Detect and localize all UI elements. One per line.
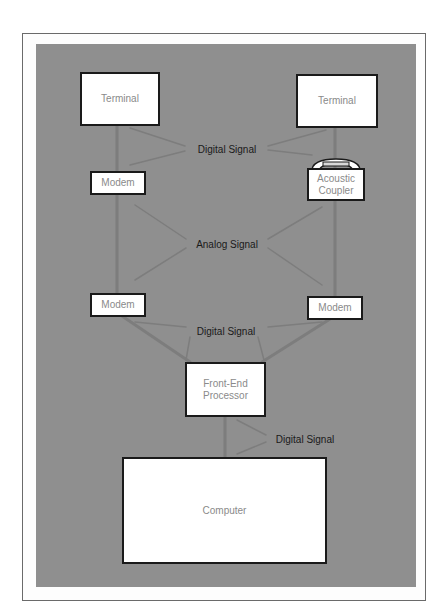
terminal-left-label: Terminal xyxy=(101,93,139,105)
digital-signal-middle-label: Digital Signal xyxy=(197,326,255,337)
modem-right-bottom-label: Modem xyxy=(318,302,351,314)
terminal-right-label: Terminal xyxy=(318,95,356,107)
modem-left-bottom-node: Modem xyxy=(90,293,146,317)
acoustic-coupler-node: Acoustic Coupler xyxy=(307,168,365,201)
front-end-processor-label: Front-End Processor xyxy=(197,378,254,402)
modem-left-bottom-label: Modem xyxy=(101,299,134,311)
analog-signal-label: Analog Signal xyxy=(196,239,258,250)
digital-signal-bottom-label: Digital Signal xyxy=(276,434,334,445)
modem-left-top-label: Modem xyxy=(101,177,134,189)
modem-right-bottom-node: Modem xyxy=(307,296,363,320)
computer-node: Computer xyxy=(122,457,327,564)
terminal-right-node: Terminal xyxy=(296,74,378,128)
terminal-left-node: Terminal xyxy=(80,72,160,126)
front-end-processor-node: Front-End Processor xyxy=(185,362,266,417)
acoustic-coupler-label: Acoustic Coupler xyxy=(313,173,359,197)
digital-signal-top-label: Digital Signal xyxy=(198,144,256,155)
computer-label: Computer xyxy=(203,505,247,517)
modem-left-top-node: Modem xyxy=(90,171,146,195)
